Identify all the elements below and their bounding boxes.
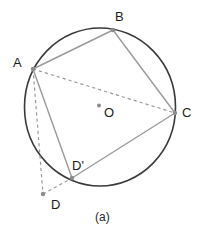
segment-A-D: [33, 69, 43, 194]
vertex-label-D-prime: D': [72, 159, 84, 172]
point-marker-O: [97, 104, 101, 108]
vertex-label-B: B: [115, 10, 124, 23]
figure-canvas: [0, 0, 206, 238]
point-marker-C: [173, 111, 177, 115]
center-label-O: O: [104, 106, 114, 119]
vertex-label-C: C: [182, 106, 191, 119]
edge-C-Dp: [72, 113, 175, 178]
geometry-figure: A B C D' D O (a): [0, 0, 206, 238]
point-marker-D: [41, 192, 45, 196]
segment-D-Dp: [43, 178, 72, 194]
vertex-label-A: A: [13, 56, 22, 69]
figure-caption: (a): [95, 211, 110, 223]
edge-A-Dp: [33, 69, 72, 178]
point-marker-B: [111, 28, 115, 32]
vertex-label-D: D: [51, 198, 60, 211]
point-marker-A: [31, 67, 35, 71]
edge-A-B: [33, 30, 113, 69]
point-marker-Dp: [70, 176, 74, 180]
